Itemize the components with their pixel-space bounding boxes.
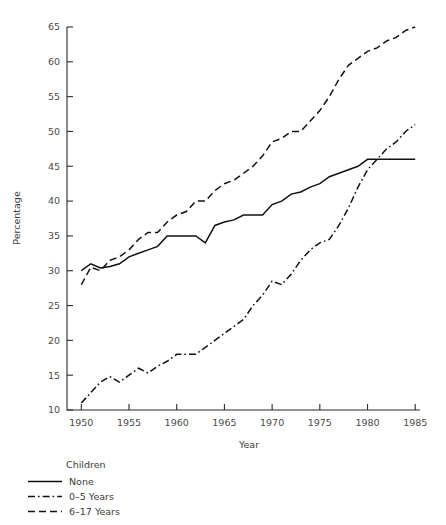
series-line-2 — [81, 27, 415, 285]
legend-label-2: 6–17 Years — [69, 506, 120, 517]
y-axis-ticks: 101520253035404550556065 — [48, 21, 73, 415]
y-tick-label: 30 — [48, 265, 60, 276]
x-axis-title: Year — [238, 439, 259, 450]
legend-title: Children — [66, 459, 106, 470]
y-tick-label: 20 — [48, 335, 60, 346]
line-chart: 101520253035404550556065 195019551960196… — [0, 0, 446, 525]
x-tick-label: 1950 — [69, 417, 93, 428]
y-tick-label: 35 — [48, 230, 60, 241]
axis-frame — [67, 27, 420, 410]
x-tick-label: 1955 — [117, 417, 141, 428]
series-line-1 — [81, 124, 415, 403]
x-tick-label: 1980 — [355, 417, 379, 428]
y-tick-label: 60 — [48, 56, 60, 67]
x-tick-label: 1975 — [308, 417, 332, 428]
legend-label-1: 0–5 Years — [69, 491, 114, 502]
x-tick-label: 1960 — [165, 417, 189, 428]
x-tick-label: 1965 — [212, 417, 236, 428]
y-tick-label: 55 — [48, 91, 60, 102]
y-tick-label: 50 — [48, 126, 60, 137]
x-tick-label: 1970 — [260, 417, 284, 428]
y-tick-label: 10 — [48, 404, 60, 415]
y-tick-label: 25 — [48, 300, 60, 311]
legend: None0–5 Years6–17 Years — [28, 476, 120, 517]
series-line-0 — [81, 159, 415, 270]
series-lines — [81, 27, 415, 403]
legend-label-0: None — [69, 476, 94, 487]
x-tick-label: 1985 — [403, 417, 427, 428]
chart-figure: 101520253035404550556065 195019551960196… — [0, 0, 446, 525]
y-tick-label: 45 — [48, 161, 60, 172]
y-tick-label: 40 — [48, 195, 60, 206]
y-axis-title: Percentage — [11, 191, 22, 245]
y-tick-label: 15 — [48, 370, 60, 381]
x-axis-ticks: 19501955196019651970197519801985 — [69, 404, 427, 428]
y-tick-label: 65 — [48, 21, 60, 32]
